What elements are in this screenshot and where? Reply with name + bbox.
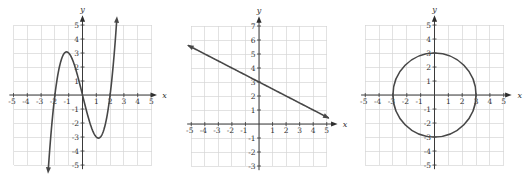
x-tick-label: -5	[360, 97, 368, 106]
y-axis-arrow-icon	[80, 15, 85, 22]
x-tick-label: 5	[324, 126, 329, 135]
y-axis-arrow-icon	[256, 16, 261, 23]
y-tick-label: -3	[248, 162, 256, 171]
x-tick-label: 2	[284, 126, 289, 135]
curve-end-arrow-icon	[323, 113, 330, 118]
graph-cubic: xy-5-4-3-2-112345-5-4-3-2-112345	[8, 5, 167, 174]
x-tick-label: -1	[64, 97, 71, 106]
x-axis-label: x	[517, 91, 522, 100]
y-tick-label: 4	[426, 35, 431, 44]
graphs-figure: xy-5-4-3-2-112345-5-4-3-2-112345 xy-5-4-…	[0, 0, 529, 177]
x-tick-label: -3	[36, 97, 44, 106]
x-tick-label: 3	[297, 126, 302, 135]
y-tick-label: -2	[72, 119, 80, 128]
y-tick-label: 2	[426, 63, 431, 72]
y-axis-label: y	[431, 5, 437, 14]
axes: xy	[9, 5, 167, 169]
x-tick-label: -5	[186, 126, 194, 135]
y-tick-label: -3	[72, 133, 80, 142]
x-tick-label: -2	[402, 97, 410, 106]
y-tick-label: 3	[74, 49, 79, 58]
y-tick-label: -1	[424, 105, 431, 114]
y-axis-arrow-icon	[432, 15, 437, 22]
y-tick-label: -4	[72, 147, 80, 156]
y-axis-label: y	[79, 5, 85, 14]
x-tick-label: -1	[415, 97, 422, 106]
x-tick-label: 1	[446, 97, 451, 106]
y-tick-label: -1	[248, 134, 255, 143]
x-tick-label: 2	[460, 97, 465, 106]
x-tick-label: 1	[94, 97, 99, 106]
x-tick-label: 3	[122, 97, 127, 106]
x-tick-label: 4	[488, 97, 493, 106]
y-tick-label: 5	[251, 50, 256, 59]
x-tick-label: 4	[311, 126, 316, 135]
x-tick-label: -1	[240, 126, 247, 135]
x-tick-label: 5	[149, 97, 154, 106]
curve-end-arrow-icon	[114, 16, 119, 23]
y-tick-label: -2	[248, 148, 256, 157]
y-tick-label: -1	[72, 105, 79, 114]
y-tick-label: 1	[426, 77, 431, 86]
y-tick-label: 1	[251, 106, 256, 115]
y-tick-label: 6	[251, 36, 256, 45]
graph-circle: xy-5-4-3-2-112345-5-4-3-2-112345	[360, 5, 522, 170]
axes: xy	[187, 6, 348, 170]
x-tick-label: -2	[227, 126, 235, 135]
axes: xy	[361, 5, 522, 169]
x-tick-label: -4	[22, 97, 30, 106]
x-tick-label: -3	[213, 126, 221, 135]
curve-start-arrow-icon	[187, 45, 194, 50]
curve-start-arrow-icon	[46, 167, 51, 174]
y-tick-label: -5	[424, 161, 432, 170]
x-tick-label: 5	[501, 97, 506, 106]
x-tick-label: -5	[8, 97, 16, 106]
y-tick-label: -2	[424, 119, 432, 128]
y-tick-label: 7	[251, 22, 256, 31]
y-tick-label: 5	[74, 21, 79, 30]
x-axis-label: x	[343, 120, 348, 129]
x-axis-label: x	[162, 91, 167, 100]
y-tick-label: -4	[424, 147, 432, 156]
y-tick-label: 4	[251, 64, 256, 73]
y-tick-label: 2	[251, 92, 256, 101]
x-tick-label: -4	[374, 97, 382, 106]
x-axis-arrow-icon	[331, 121, 338, 126]
x-tick-label: 1	[270, 126, 275, 135]
x-tick-label: 4	[135, 97, 140, 106]
graph-line: xy-5-4-3-2-112345-3-2-11234567	[186, 6, 348, 171]
y-tick-label: 5	[426, 21, 431, 30]
y-tick-label: -5	[72, 161, 80, 170]
y-tick-label: 4	[74, 35, 79, 44]
x-tick-label: -4	[200, 126, 208, 135]
y-axis-label: y	[256, 6, 262, 15]
